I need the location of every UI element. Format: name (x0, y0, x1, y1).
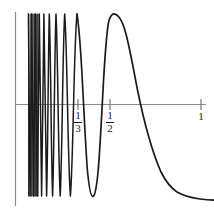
fraction-numerator: 1 (74, 110, 82, 121)
fraction-denominator: 2 (106, 123, 114, 134)
fraction-one-half: 1 2 (106, 110, 114, 134)
tick-label-one-half: 1 2 (102, 110, 118, 134)
fraction-numerator: 1 (106, 110, 114, 121)
tick-label-one-text: 1 (198, 110, 204, 122)
tick-label-one: 1 (193, 111, 209, 122)
curve-descent-to-trough (77, 14, 98, 197)
tick-label-one-third: 1 3 (70, 110, 86, 134)
fraction-denominator: 3 (74, 123, 82, 134)
fraction-one-third: 1 3 (74, 110, 82, 134)
curve-group (28, 14, 214, 200)
plot-canvas (0, 0, 214, 210)
curve-main-hump-and-tail (98, 14, 214, 200)
figure-plot: 1 3 1 2 1 (0, 0, 214, 210)
